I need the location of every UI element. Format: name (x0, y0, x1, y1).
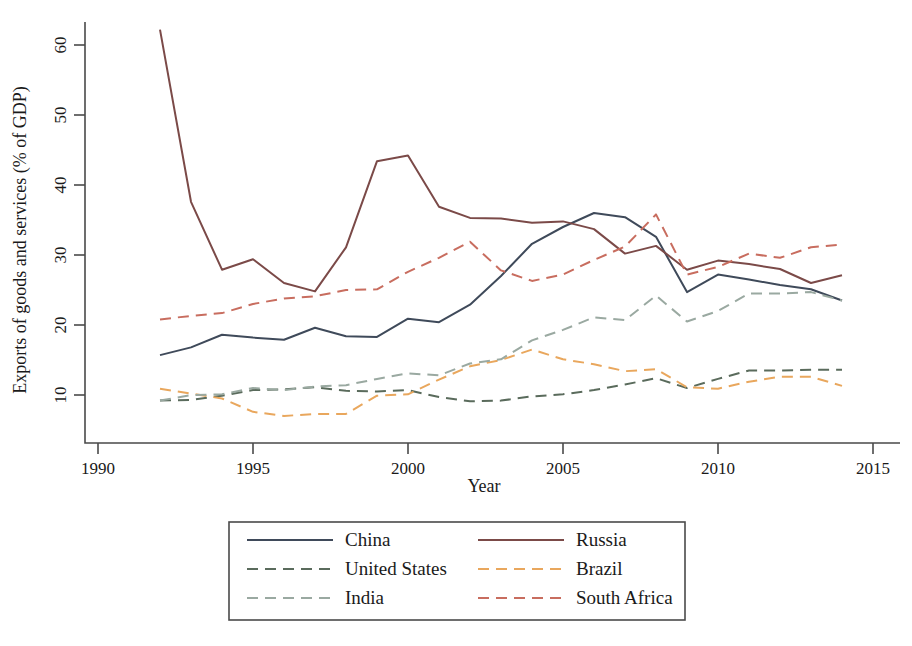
x-tick-label: 1995 (236, 459, 270, 478)
y-tick-label: 20 (51, 317, 70, 334)
data-series-group (160, 30, 842, 416)
axis-lines (85, 22, 900, 443)
x-tick-label: 1990 (81, 459, 115, 478)
x-axis-title: Year (467, 476, 500, 496)
y-tick-label: 50 (51, 107, 70, 124)
legend-label-united-states: United States (345, 558, 447, 579)
x-tick-label: 2015 (856, 459, 890, 478)
legend-entries: ChinaRussiaUnited StatesBrazilIndiaSouth… (247, 529, 673, 608)
line-chart: 199019952000200520102015 102030405060 Ye… (0, 0, 912, 646)
legend: ChinaRussiaUnited StatesBrazilIndiaSouth… (229, 522, 685, 620)
legend-label-china: China (345, 529, 391, 550)
y-tick-label: 60 (51, 37, 70, 54)
y-tick-label: 40 (51, 177, 70, 194)
axes-group: 199019952000200520102015 102030405060 (51, 22, 900, 478)
x-axis-ticks: 199019952000200520102015 (81, 443, 890, 478)
legend-label-india: India (345, 587, 385, 608)
x-tick-label: 2000 (391, 459, 425, 478)
series-line-russia (160, 30, 842, 292)
legend-label-brazil: Brazil (576, 558, 622, 579)
y-tick-label: 10 (51, 387, 70, 404)
series-line-china (160, 213, 842, 355)
y-tick-label: 30 (51, 247, 70, 264)
y-axis-title: Exports of goods and services (% of GDP) (10, 86, 31, 393)
legend-label-south-africa: South Africa (576, 587, 673, 608)
series-line-india (160, 292, 842, 401)
y-axis-ticks: 102030405060 (51, 37, 85, 404)
chart-figure: 199019952000200520102015 102030405060 Ye… (0, 0, 912, 646)
series-line-united-states (160, 370, 842, 402)
x-tick-label: 2005 (546, 459, 580, 478)
x-tick-label: 2010 (701, 459, 735, 478)
legend-label-russia: Russia (576, 529, 627, 550)
